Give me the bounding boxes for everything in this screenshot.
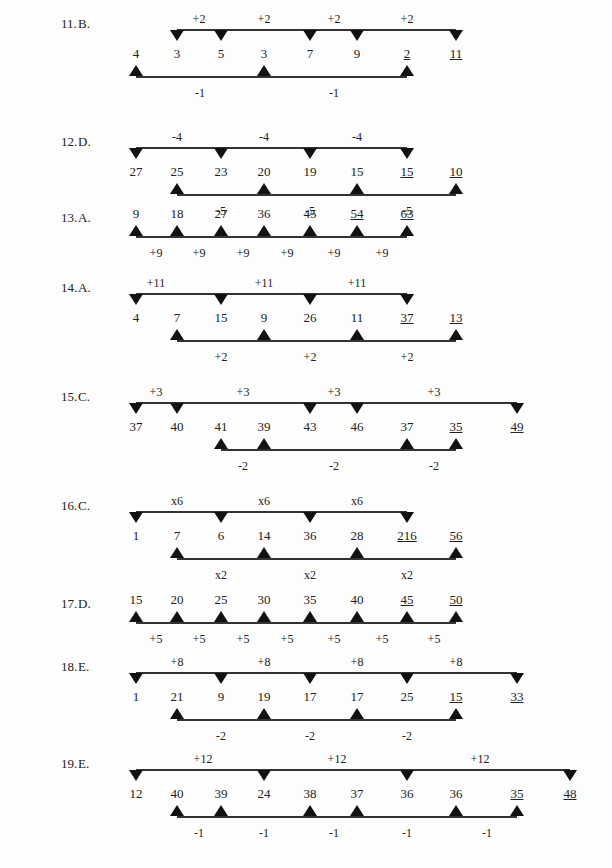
sequence-term: 15	[351, 164, 364, 180]
down-triangle-icon	[510, 403, 524, 414]
up-triangle-icon	[303, 805, 317, 816]
bottom-step-label: -2	[216, 729, 226, 744]
sequence-term: 3	[174, 46, 181, 62]
sequence-term: 28	[351, 528, 364, 544]
down-triangle-icon	[303, 673, 317, 684]
answer-term: 63	[401, 206, 414, 222]
down-triangle-icon	[303, 30, 317, 41]
sequence-term: 9	[261, 310, 268, 326]
down-triangle-icon	[350, 403, 364, 414]
sequence-term: 14	[258, 528, 271, 544]
up-triangle-icon	[170, 708, 184, 719]
question-number: 14.	[61, 280, 77, 296]
bottom-step-label: +5	[237, 632, 250, 647]
top-connector-line	[136, 402, 517, 404]
down-triangle-icon	[129, 403, 143, 414]
top-step-label: +11	[147, 276, 165, 291]
sequence-term: 27	[215, 206, 228, 222]
up-triangle-icon	[449, 183, 463, 194]
up-triangle-icon	[214, 805, 228, 816]
bottom-connector-line	[177, 340, 456, 342]
down-triangle-icon	[129, 673, 143, 684]
sequence-term: 17	[351, 689, 364, 705]
answer-term: 37	[401, 310, 414, 326]
sequence-term: 37	[351, 786, 364, 802]
top-step-label: +8	[351, 655, 364, 670]
top-step-label: +11	[255, 276, 273, 291]
bottom-connector-line	[136, 622, 456, 624]
sequence-term: 25	[171, 164, 184, 180]
down-triangle-icon	[563, 770, 577, 781]
sequence-term: 39	[215, 786, 228, 802]
bottom-step-label: +9	[281, 246, 294, 261]
sequence-term: 37	[401, 419, 414, 435]
answer-letter: A.	[78, 210, 91, 226]
down-triangle-icon	[510, 673, 524, 684]
down-triangle-icon	[214, 512, 228, 523]
top-connector-line	[136, 147, 407, 149]
bottom-step-label: -1	[329, 826, 339, 841]
sequence-term: 1	[133, 528, 140, 544]
sequence-term: 5	[218, 46, 225, 62]
bottom-step-label: -1	[482, 826, 492, 841]
question-number: 18.	[61, 659, 77, 675]
top-step-label: +11	[348, 276, 366, 291]
down-triangle-icon	[303, 403, 317, 414]
bottom-step-label: -1	[194, 826, 204, 841]
sequence-term: 43	[304, 419, 317, 435]
down-triangle-icon	[350, 30, 364, 41]
up-triangle-icon	[214, 225, 228, 236]
up-triangle-icon	[400, 65, 414, 76]
up-triangle-icon	[257, 225, 271, 236]
answer-term: 35	[450, 419, 463, 435]
bottom-step-label: -2	[429, 459, 439, 474]
bottom-step-label: -2	[305, 729, 315, 744]
answer-term: 33	[511, 689, 524, 705]
up-triangle-icon	[449, 611, 463, 622]
down-triangle-icon	[129, 148, 143, 159]
bottom-step-label: +9	[150, 246, 163, 261]
up-triangle-icon	[257, 708, 271, 719]
top-step-label: x6	[171, 494, 183, 509]
sequence-term: 11	[351, 310, 364, 326]
up-triangle-icon	[170, 547, 184, 558]
top-step-label: -4	[259, 130, 269, 145]
bottom-step-label: +9	[328, 246, 341, 261]
up-triangle-icon	[257, 547, 271, 558]
up-triangle-icon	[449, 805, 463, 816]
bottom-connector-line	[177, 558, 456, 560]
bottom-step-label: +5	[428, 632, 441, 647]
up-triangle-icon	[510, 805, 524, 816]
answer-term: 2	[404, 46, 411, 62]
sequence-term: 36	[304, 528, 317, 544]
top-connector-line	[136, 769, 570, 771]
up-triangle-icon	[350, 329, 364, 340]
sequence-term: 24	[258, 786, 271, 802]
answer-term: 15	[401, 164, 414, 180]
up-triangle-icon	[257, 438, 271, 449]
top-step-label: +3	[150, 385, 163, 400]
bottom-step-label: x2	[401, 568, 413, 583]
sequence-term: 7	[307, 46, 314, 62]
up-triangle-icon	[449, 329, 463, 340]
bottom-step-label: +5	[281, 632, 294, 647]
top-step-label: +8	[171, 655, 184, 670]
bottom-step-label: -2	[402, 729, 412, 744]
sequence-term: 35	[304, 592, 317, 608]
down-triangle-icon	[129, 770, 143, 781]
up-triangle-icon	[170, 183, 184, 194]
up-triangle-icon	[214, 611, 228, 622]
answer-letter: D.	[78, 596, 91, 612]
answer-term: 216	[397, 528, 417, 544]
top-connector-line	[136, 672, 517, 674]
down-triangle-icon	[400, 512, 414, 523]
bottom-step-label: -2	[329, 459, 339, 474]
bottom-step-label: +5	[150, 632, 163, 647]
answer-letter: C.	[78, 389, 90, 405]
sequence-term: 4	[133, 310, 140, 326]
up-triangle-icon	[350, 611, 364, 622]
answer-letter: E.	[78, 659, 89, 675]
bottom-connector-line	[177, 816, 517, 818]
up-triangle-icon	[350, 547, 364, 558]
up-triangle-icon	[257, 329, 271, 340]
